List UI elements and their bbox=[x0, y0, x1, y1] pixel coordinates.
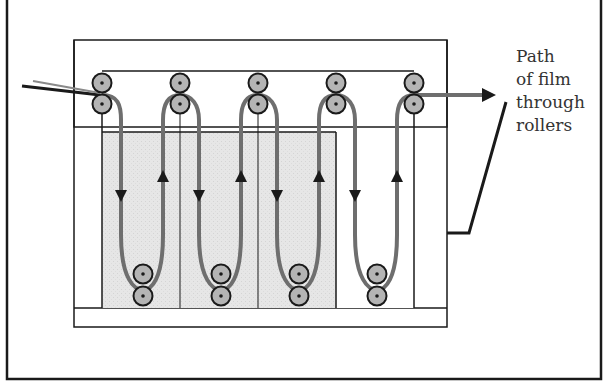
path-label: Path of film through rollers bbox=[516, 46, 590, 135]
label-leader-line bbox=[447, 102, 506, 233]
label-line-1: Path bbox=[516, 46, 555, 66]
label-line-4: rollers bbox=[516, 115, 572, 135]
film-processor-diagram: Path of film through rollers bbox=[0, 0, 607, 390]
roller-pair-top-4 bbox=[327, 74, 346, 114]
roller-pair-top-3 bbox=[249, 74, 268, 114]
label-line-2: of film bbox=[516, 69, 571, 89]
label-line-3: through bbox=[516, 92, 585, 112]
exit-arrow-head bbox=[482, 88, 496, 102]
roller-pair-top-2 bbox=[171, 74, 190, 114]
top-rollers bbox=[93, 74, 424, 114]
